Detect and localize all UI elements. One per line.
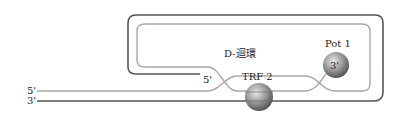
trf2-protein-sphere xyxy=(245,83,273,111)
label-3prime-strand: 3' xyxy=(27,95,36,106)
label-loop-5prime: 5' xyxy=(203,74,212,85)
t-loop-diagram: 5' 3' 5' D-迴環 TRF 2 Pot 1 3' xyxy=(0,0,402,119)
label-d-loop: D-迴環 xyxy=(224,47,256,59)
label-trf2: TRF 2 xyxy=(242,71,273,82)
label-pot1-3prime: 3' xyxy=(330,60,339,71)
label-pot1: Pot 1 xyxy=(325,38,351,49)
